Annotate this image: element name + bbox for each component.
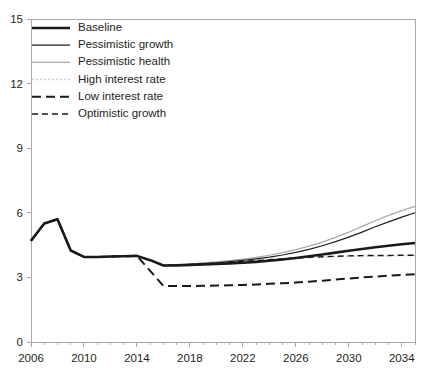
y-axis-ticks: 03691215 — [10, 13, 31, 348]
x-tick-label: 2026 — [283, 352, 309, 364]
x-tick-label: 2022 — [230, 352, 256, 364]
legend-label-low-interest-rate[interactable]: Low interest rate — [78, 90, 163, 102]
legend-label-baseline[interactable]: Baseline — [78, 21, 122, 33]
y-tick-label: 12 — [10, 78, 23, 90]
x-tick-label: 2006 — [18, 352, 44, 364]
x-tick-label: 2018 — [177, 352, 203, 364]
y-tick-label: 6 — [17, 207, 23, 219]
x-tick-label: 2014 — [124, 352, 150, 364]
y-tick-label: 15 — [10, 13, 23, 25]
legend-label-pessimistic-health[interactable]: Pessimistic health — [78, 55, 170, 67]
legend-label-optimistic-growth[interactable]: Optimistic growth — [78, 107, 166, 119]
x-tick-label: 2034 — [389, 352, 415, 364]
y-tick-label: 3 — [17, 271, 23, 283]
y-tick-label: 0 — [17, 336, 23, 348]
plot-background — [31, 19, 415, 342]
x-tick-label: 2010 — [71, 352, 97, 364]
line-chart: 03691215 2006201020142018202220262030203… — [0, 0, 434, 381]
y-tick-label: 9 — [17, 142, 23, 154]
x-tick-label: 2030 — [336, 352, 362, 364]
chart-container: 03691215 2006201020142018202220262030203… — [0, 0, 434, 381]
legend-label-high-interest-rate[interactable]: High interest rate — [78, 73, 166, 85]
legend-label-pessimistic-growth[interactable]: Pessimistic growth — [78, 38, 173, 50]
x-axis-ticks: 20062010201420182022202620302034 — [18, 342, 415, 364]
